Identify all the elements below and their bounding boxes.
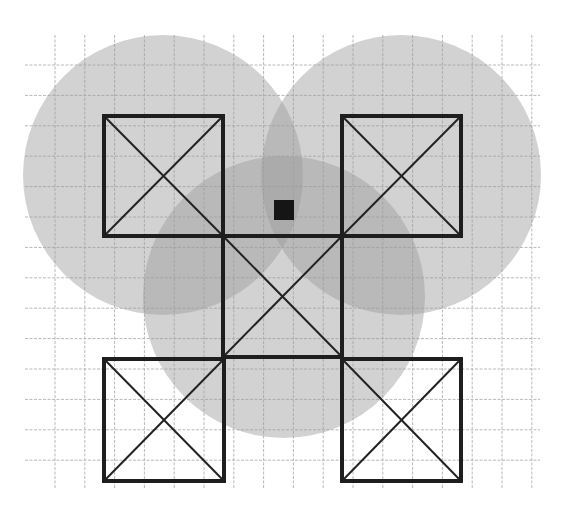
cell-bottom-left	[104, 359, 224, 481]
diagram-canvas	[0, 0, 562, 505]
cell-bottom-right	[342, 359, 461, 481]
marker-layer	[274, 200, 294, 220]
center-marker	[274, 200, 294, 220]
